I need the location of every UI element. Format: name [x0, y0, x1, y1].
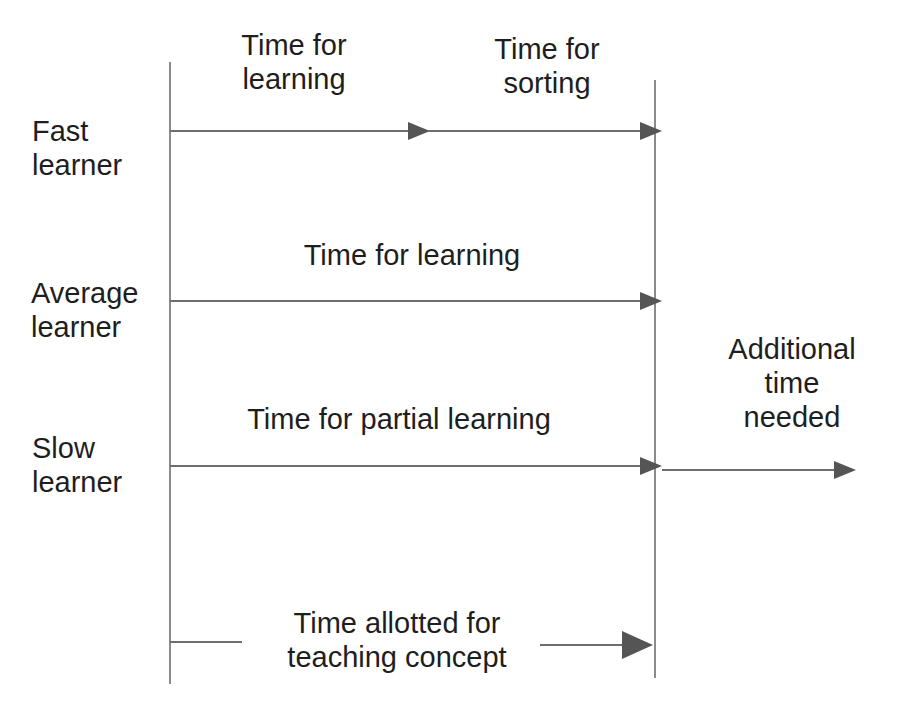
arrowhead-icon	[640, 122, 662, 140]
allotted-time-label: Time allotted for teaching concept	[252, 606, 542, 674]
arrowhead-icon	[408, 122, 430, 140]
segment-label-slow-partial: Time for partial learning	[204, 402, 594, 436]
row-label-average: Average learner	[31, 276, 139, 344]
arrowhead-icon	[834, 461, 856, 479]
segment-label-average-learning: Time for learning	[262, 238, 562, 272]
segment-label-fast-sorting: Time for sorting	[477, 32, 617, 100]
arrowhead-icon	[622, 631, 653, 659]
arrowhead-icon	[640, 457, 662, 475]
segment-label-fast-learning: Time for learning	[214, 28, 374, 96]
arrowhead-icon	[640, 292, 662, 310]
row-label-fast: Fast learner	[32, 114, 122, 182]
row-label-slow: Slow learner	[32, 431, 122, 499]
segment-label-slow-additional: Additional time needed	[702, 332, 882, 434]
